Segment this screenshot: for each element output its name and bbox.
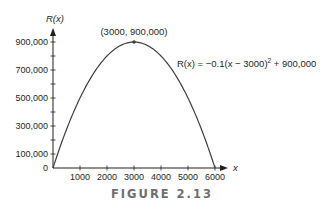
x-tick-label: 2000 bbox=[97, 172, 117, 182]
y-tick-label: 700,000 bbox=[15, 65, 48, 75]
x-tick-label: 6000 bbox=[205, 172, 225, 182]
x-tick-label: 1000 bbox=[70, 172, 90, 182]
equation-tail: + 900,000 bbox=[271, 58, 316, 69]
y-ticks: 0100,000300,000500,000700,000900,000 bbox=[15, 37, 55, 173]
x-axis-arrow-icon bbox=[220, 165, 228, 171]
equation-main: R(x) = −0.1(x − 3000) bbox=[177, 58, 268, 69]
y-tick-label: 500,000 bbox=[15, 93, 48, 103]
y-axis-arrow-icon bbox=[50, 28, 56, 36]
y-tick-label: 100,000 bbox=[15, 149, 48, 159]
x-axis-title: x bbox=[232, 162, 239, 173]
vertex-label: (3000, 900,000) bbox=[100, 26, 167, 37]
x-tick-label: 3000 bbox=[124, 172, 144, 182]
figure-caption: FIGURE 2.13 bbox=[0, 187, 324, 201]
x-tick-label: 4000 bbox=[151, 172, 171, 182]
revenue-parabola-chart: 0100,000300,000500,000700,000900,000 100… bbox=[0, 0, 324, 213]
y-tick-label: 900,000 bbox=[15, 37, 48, 47]
vertex-point bbox=[132, 40, 136, 44]
x-tick-label: 5000 bbox=[178, 172, 198, 182]
y-tick-label: 0 bbox=[43, 163, 48, 173]
equation-label: R(x) = −0.1(x − 3000)2 + 900,000 bbox=[177, 57, 316, 69]
y-tick-label: 300,000 bbox=[15, 121, 48, 131]
y-axis-title: R(x) bbox=[46, 13, 64, 24]
